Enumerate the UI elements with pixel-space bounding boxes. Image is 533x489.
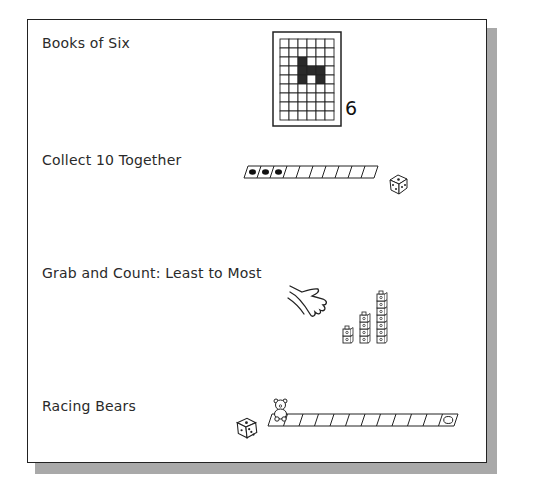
- activity-card-frame: [27, 19, 487, 463]
- bear-counter-icon: [272, 398, 290, 422]
- hand-icon: [288, 284, 333, 324]
- activity-title-racing-bears: Racing Bears: [42, 398, 136, 414]
- die-icon: [234, 414, 260, 440]
- grid-card-icon: [272, 31, 344, 127]
- activity-title-grab-and-count: Grab and Count: Least to Most: [42, 265, 262, 281]
- grid-card-number: 6: [345, 97, 357, 119]
- die-icon: [386, 172, 410, 196]
- race-track-icon: [266, 412, 466, 428]
- counting-strip-icon: [238, 164, 388, 180]
- cube-towers-icon: [340, 285, 395, 345]
- activity-title-collect-10-together: Collect 10 Together: [42, 152, 181, 168]
- activity-title-books-of-six: Books of Six: [42, 35, 130, 51]
